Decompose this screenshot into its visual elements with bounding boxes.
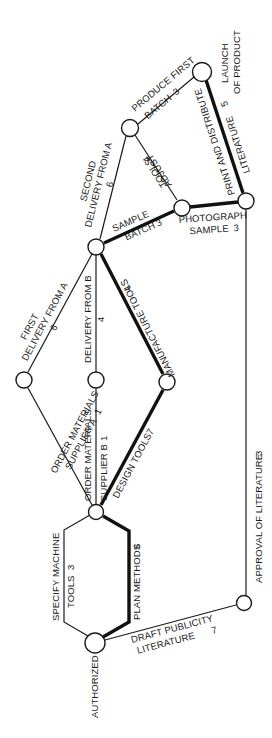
- label-order-b-line1: ORDER MATERIALS: [82, 409, 93, 501]
- node-hub: [89, 505, 104, 520]
- label-photograph-line2: SAMPLE: [189, 223, 229, 237]
- edge-manufacture-tools: [101, 254, 163, 374]
- label-approval-literature: APPROVAL OF LITERATURE: [253, 454, 264, 583]
- label-delivery-b: DELIVERY FROM B: [82, 275, 93, 363]
- label-delivery-b-duration: 4: [95, 317, 106, 322]
- label-plan-methods: PLAN METHODS: [131, 544, 142, 620]
- label-design-tools: DESIGN TOOLS: [110, 431, 154, 500]
- label-specify-machine-line2: TOOLS: [65, 575, 76, 608]
- label-authorized: AUTHORIZED: [89, 655, 100, 718]
- edge-photograph-sample: [190, 202, 238, 207]
- label-specify-machine-duration: 3: [65, 565, 76, 570]
- label-plan-methods-duration: 6: [131, 544, 142, 549]
- node-print: [238, 193, 254, 209]
- node-sample: [88, 239, 104, 255]
- label-order-a-duration: 1: [92, 407, 104, 417]
- label-specify-machine-line1: SPECIFY MACHINE: [50, 533, 61, 621]
- node-launch: [193, 63, 212, 82]
- label-order-b-line2: SUPPLIER B: [98, 444, 109, 501]
- label-second-delivery-duration: 6: [104, 180, 116, 188]
- node-draft: [237, 596, 252, 611]
- label-order-b-duration: 1: [98, 436, 109, 441]
- node-produce: [122, 120, 139, 137]
- node-supplier-b: [88, 372, 104, 388]
- label-approval-literature-duration: 3: [253, 451, 264, 456]
- label-photograph-duration: 3: [233, 222, 239, 233]
- critical-path-network: AUTHORIZED LAUNCH OF PRODUCT SPECIFY MAC…: [0, 0, 272, 738]
- label-launch-2: OF PRODUCT: [231, 30, 242, 94]
- node-authorized: [85, 633, 105, 653]
- label-draft-publicity-duration: 7: [210, 624, 218, 636]
- node-supplier-a: [16, 372, 32, 388]
- edge-plan-methods: [103, 516, 129, 637]
- label-launch: LAUNCH: [219, 43, 230, 83]
- label-print-duration: 5: [218, 100, 230, 109]
- edge-design-tools: [101, 390, 163, 505]
